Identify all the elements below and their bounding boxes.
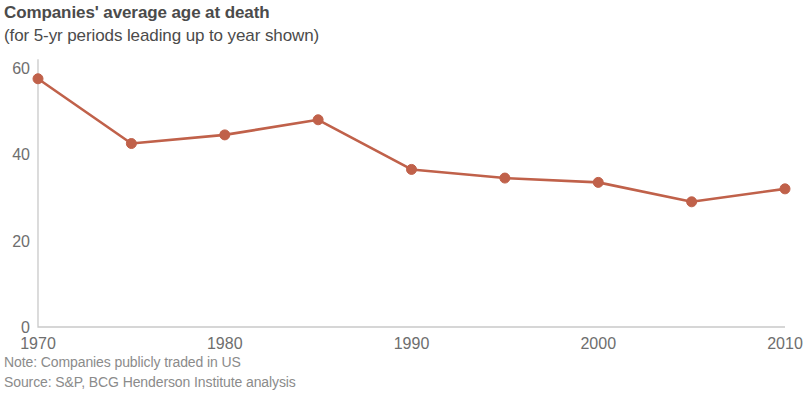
- data-series: [38, 79, 785, 202]
- y-tick-label: 20: [12, 233, 30, 250]
- line-chart-svg: 0204060 19701980199020002010: [0, 0, 804, 360]
- x-tick-label: 2000: [580, 335, 616, 352]
- plot-area: 0204060 19701980199020002010: [0, 0, 804, 360]
- x-tick-label: 1980: [207, 335, 243, 352]
- note-text: Note: Companies publicly traded in US: [4, 352, 794, 372]
- data-point-marker: [593, 177, 603, 187]
- axis-spine: [38, 59, 785, 327]
- chart-footer: Note: Companies publicly traded in US So…: [4, 352, 794, 392]
- data-point-marker: [500, 173, 510, 183]
- y-tick-label: 40: [12, 146, 30, 163]
- data-markers: [33, 74, 790, 207]
- data-point-marker: [33, 74, 43, 84]
- data-point-marker: [313, 115, 323, 125]
- series-line: [38, 79, 785, 202]
- y-tick-label: 0: [21, 319, 30, 336]
- data-point-marker: [407, 164, 417, 174]
- chart-figure: Companies' average age at death (for 5-y…: [0, 0, 804, 398]
- data-point-marker: [687, 197, 697, 207]
- data-point-marker: [780, 184, 790, 194]
- source-text: Source: S&P, BCG Henderson Institute ana…: [4, 372, 794, 392]
- y-tick-label: 60: [12, 60, 30, 77]
- x-tick-label: 1970: [20, 335, 56, 352]
- x-tick-label: 2010: [767, 335, 803, 352]
- axes: [38, 59, 785, 327]
- x-tick-label: 1990: [394, 335, 430, 352]
- y-axis-ticks: 0204060: [12, 60, 30, 336]
- x-axis-ticks: 19701980199020002010: [20, 335, 803, 352]
- data-point-marker: [126, 139, 136, 149]
- data-point-marker: [220, 130, 230, 140]
